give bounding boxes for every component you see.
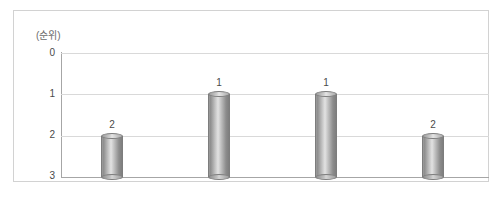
gridline-0 bbox=[61, 53, 489, 54]
bar-value-label-2014: 2 bbox=[92, 119, 132, 130]
bar-bottom-cap-icon bbox=[315, 174, 337, 180]
bar-2017[interactable] bbox=[422, 136, 444, 177]
y-tick-label-1: 1 bbox=[25, 88, 55, 99]
bar-top-cap-icon bbox=[208, 91, 230, 97]
gridline-1 bbox=[61, 94, 489, 95]
y-axis-unit-label: (순위) bbox=[36, 27, 61, 42]
y-tick-label-2: 2 bbox=[25, 129, 55, 140]
bar-bottom-cap-icon bbox=[208, 174, 230, 180]
bar-2016[interactable] bbox=[315, 94, 337, 177]
bar-bottom-cap-icon bbox=[422, 174, 444, 180]
bar-bottom-cap-icon bbox=[101, 174, 123, 180]
y-tick-label-0: 0 bbox=[25, 47, 55, 58]
y-tick-label-3: 3 bbox=[25, 170, 55, 181]
plot-area: 2 1 1 2 2014 2015 2016 2017 bbox=[61, 53, 489, 177]
bar-top-cap-icon bbox=[422, 133, 444, 139]
bar-2015[interactable] bbox=[208, 94, 230, 177]
bar-2014[interactable] bbox=[101, 136, 123, 177]
chart-frame: (순위) 0 1 2 3 2 1 bbox=[13, 10, 489, 182]
bar-value-label-2015: 1 bbox=[199, 77, 239, 88]
bar-value-label-2016: 1 bbox=[306, 77, 346, 88]
rank-bar-chart-figure: (순위) 0 1 2 3 2 1 bbox=[0, 0, 501, 203]
bar-top-cap-icon bbox=[101, 133, 123, 139]
bar-top-cap-icon bbox=[315, 91, 337, 97]
bar-value-label-2017: 2 bbox=[413, 119, 453, 130]
